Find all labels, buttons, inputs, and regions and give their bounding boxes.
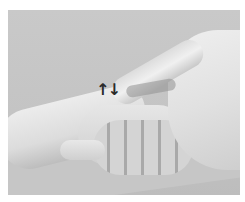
hands-photo: ↑↓ (8, 10, 240, 195)
thumb (60, 140, 105, 160)
up-arrow-icon: ↑ (96, 80, 107, 99)
up-down-arrows-icon: ↑↓ (96, 82, 119, 98)
down-arrow-icon: ↓ (107, 80, 118, 99)
